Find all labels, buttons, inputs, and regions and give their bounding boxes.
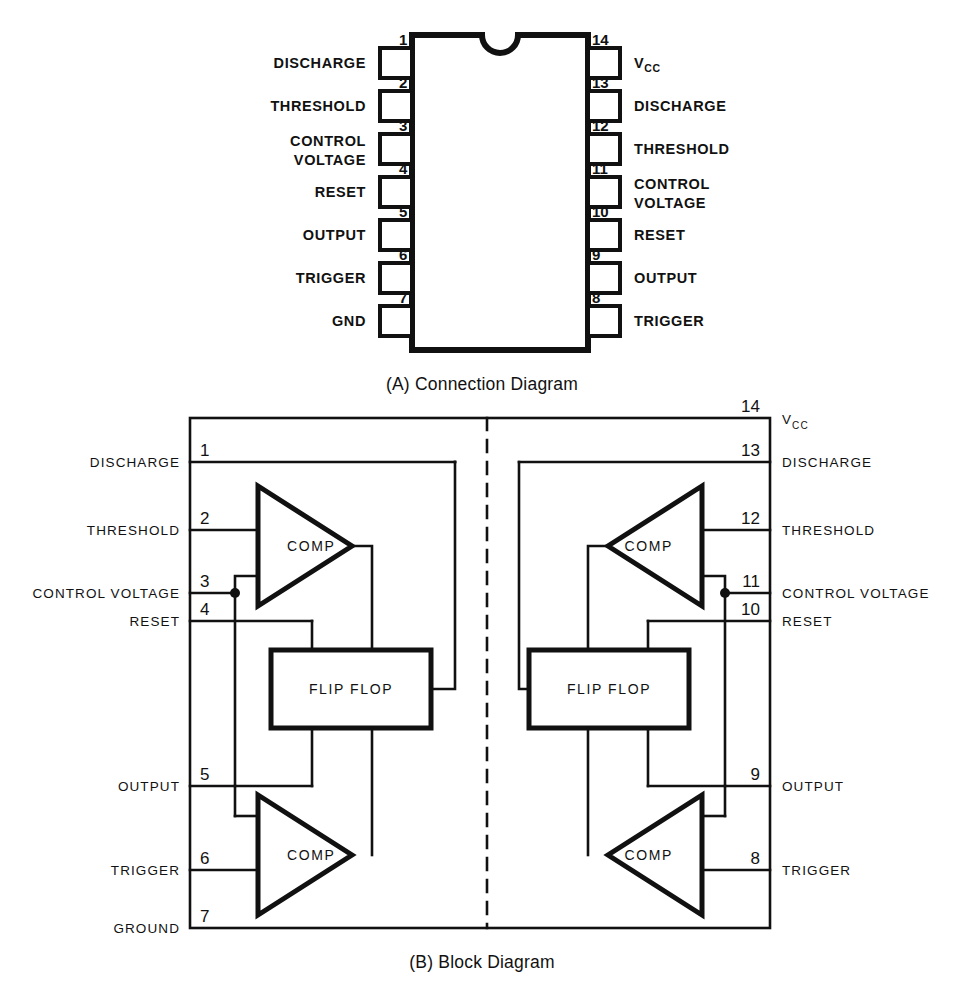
bd-vcc-subscript: CC (792, 420, 809, 431)
bd-pin-number-10: 10 (741, 600, 760, 619)
bd-pin-label-12: THRESHOLD (782, 523, 875, 538)
comparator-top-right-label: COMP (625, 538, 673, 554)
bd-pin-number-8: 8 (751, 849, 760, 868)
pin-number-9: 9 (592, 246, 600, 263)
pin-number-11: 11 (592, 160, 608, 177)
bd-pin-number-9: 9 (751, 765, 760, 784)
pin-pad-7 (380, 306, 412, 336)
comparator-bottom-right-label: COMP (625, 847, 673, 863)
comparator-bottom-left-label: COMP (287, 847, 335, 863)
pin-label-13: DISCHARGE (634, 98, 726, 114)
bd-pin-number-14: 14 (741, 397, 760, 416)
pin-label-12: THRESHOLD (634, 141, 730, 157)
bd-pin-label-8: TRIGGER (782, 863, 851, 878)
bd-pin-label-13: DISCHARGE (782, 455, 872, 470)
vcc-subscript: CC (644, 62, 660, 74)
flipflop-right-label: FLIP FLOP (567, 681, 651, 697)
pin-label-7: GND (332, 313, 366, 329)
pin-number-1: 1 (399, 31, 407, 48)
pin-label-11b: VOLTAGE (634, 195, 706, 211)
bd-pin-number-7: 7 (200, 907, 209, 926)
pin-label-14: VCC (634, 55, 661, 74)
bd-pin-label-1: DISCHARGE (90, 455, 180, 470)
bd-pin-label-6: TRIGGER (111, 863, 180, 878)
pin-label-8: TRIGGER (634, 313, 704, 329)
pin-number-8: 8 (592, 289, 600, 306)
bd-pin-number-3: 3 (200, 572, 209, 591)
pin-number-6: 6 (399, 246, 407, 263)
pin-number-13: 13 (592, 74, 609, 91)
flipflop-left-label: FLIP FLOP (309, 681, 393, 697)
pin-label-10: RESET (634, 227, 685, 243)
bd-pin-label-14: VCC (782, 412, 809, 431)
bd-pin-label-2: THRESHOLD (87, 523, 180, 538)
pin-label-1: DISCHARGE (274, 55, 366, 71)
bd-pin-label-11: CONTROL VOLTAGE (782, 586, 930, 601)
pin-number-12: 12 (592, 117, 609, 134)
bd-pin-number-6: 6 (200, 849, 209, 868)
pin-number-14: 14 (592, 31, 609, 48)
pin-number-7: 7 (399, 289, 407, 306)
pin-label-5: OUTPUT (303, 227, 366, 243)
pin-label-6: TRIGGER (296, 270, 366, 286)
bd-pin-number-1: 1 (200, 441, 209, 460)
pin-number-5: 5 (399, 203, 407, 220)
bd-pin-label-3: CONTROL VOLTAGE (32, 586, 180, 601)
caption-block-diagram: (B) Block Diagram (409, 952, 554, 972)
connection-diagram: 1 2 3 4 5 6 7 14 13 12 11 10 9 8 DISCHAR… (270, 31, 729, 394)
bd-pin-label-5: OUTPUT (118, 779, 180, 794)
bd-pin-number-4: 4 (200, 600, 209, 619)
pin-number-10: 10 (592, 203, 609, 220)
pin-label-4: RESET (315, 184, 366, 200)
pin-label-3: CONTROL (290, 133, 366, 149)
pin-label-11: CONTROL (634, 176, 710, 192)
comparator-top-left-label: COMP (287, 538, 335, 554)
pin-number-3: 3 (399, 117, 407, 134)
pin-label-9: OUTPUT (634, 270, 697, 286)
caption-connection-diagram: (A) Connection Diagram (386, 374, 578, 394)
bd-pin-label-4: RESET (129, 614, 180, 629)
vcc-main: V (634, 55, 644, 71)
figure-sheet: 1 2 3 4 5 6 7 14 13 12 11 10 9 8 DISCHAR… (0, 0, 964, 996)
figure-svg: 1 2 3 4 5 6 7 14 13 12 11 10 9 8 DISCHAR… (0, 0, 964, 996)
pin-pad-8 (588, 306, 620, 336)
block-diagram: COMP FLIP FLOP COMP (32, 397, 929, 972)
pin-number-4: 4 (399, 160, 408, 177)
bd-pin-label-10: RESET (782, 614, 833, 629)
bd-pin-number-2: 2 (200, 509, 209, 528)
pin-label-2: THRESHOLD (270, 98, 366, 114)
bd-pin-label-9: OUTPUT (782, 779, 844, 794)
pin-number-2: 2 (399, 74, 407, 91)
bd-pin-number-5: 5 (200, 765, 209, 784)
bd-vcc-main: V (782, 412, 792, 427)
bd-pin-number-11: 11 (742, 572, 760, 591)
pin-label-3b: VOLTAGE (294, 152, 366, 168)
bd-pin-label-7: GROUND (113, 921, 180, 936)
bd-pin-number-13: 13 (741, 441, 760, 460)
dip-package-outline (412, 35, 588, 350)
bd-pin-number-12: 12 (741, 509, 760, 528)
